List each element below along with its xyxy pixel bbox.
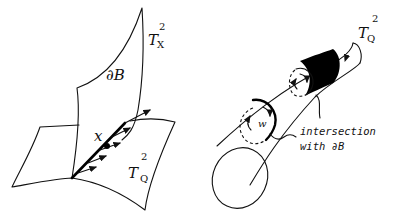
shaded-band <box>300 49 340 96</box>
loop-1: w <box>240 100 275 144</box>
label-w: w <box>258 118 267 129</box>
diagram-canvas: T 2 X ∂B x T 2 Q w <box>0 0 394 223</box>
right-panel: w intersection with ∂B T 2 Q <box>202 13 378 218</box>
upper-sheet <box>72 8 143 178</box>
label-tq-sup: 2 <box>141 151 147 162</box>
label-tube-tq-sup: 2 <box>372 13 378 24</box>
annotation-line-1: intersection <box>300 125 376 137</box>
left-panel: T 2 X ∂B x T 2 Q <box>12 8 175 210</box>
label-tx-sub: X <box>157 39 165 50</box>
label-tube-tq-sub: Q <box>367 33 375 44</box>
label-tq-sub: Q <box>140 173 148 184</box>
loop-2 <box>289 68 313 96</box>
label-tq: T <box>128 164 139 182</box>
label-boundary: ∂B <box>106 66 125 84</box>
tube-far-end <box>353 43 361 63</box>
tube-near-end <box>202 138 277 217</box>
annotation-line-2: with ∂B <box>300 140 344 152</box>
point-x-dot <box>104 143 110 149</box>
label-point-x: x <box>94 127 103 145</box>
label-tx-sup: 2 <box>159 21 165 32</box>
leader-line-2 <box>316 95 320 118</box>
